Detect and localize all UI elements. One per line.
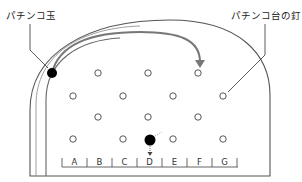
- pachinko-diagram: パチンコ玉 パチンコ台の釘 ABCDEFG: [0, 0, 302, 182]
- slot-label-f: F: [197, 157, 202, 167]
- pin: [170, 93, 176, 99]
- slot-label-g: G: [221, 157, 228, 167]
- ball-label: パチンコ玉: [6, 10, 56, 21]
- pin: [170, 136, 176, 142]
- drop-arrowhead-icon: [148, 152, 153, 156]
- pin: [220, 136, 226, 142]
- pin: [70, 136, 76, 142]
- pin: [95, 70, 101, 76]
- launch-rail: [46, 38, 120, 176]
- pin: [145, 70, 151, 76]
- trajectory-arrowhead-icon: [195, 60, 205, 68]
- slot-label-d: D: [146, 157, 153, 167]
- ball-motion-dots: [155, 132, 162, 136]
- trajectory-arrow: [52, 32, 200, 73]
- pin: [145, 114, 151, 120]
- slot-label-e: E: [172, 157, 177, 167]
- pin-label: パチンコ台の釘: [231, 10, 301, 21]
- pin: [220, 93, 226, 99]
- slot-label-a: A: [72, 157, 78, 167]
- launch-ball: [47, 68, 57, 78]
- launch-rail-outer: [36, 26, 140, 176]
- pin: [195, 70, 201, 76]
- slot-label-b: B: [97, 157, 103, 167]
- pin: [195, 114, 201, 120]
- ball-leader-line: [30, 24, 48, 68]
- pin: [120, 93, 126, 99]
- pin: [120, 136, 126, 142]
- falling-ball: [145, 135, 156, 146]
- pins-group: [70, 70, 226, 142]
- slot-label-c: C: [122, 157, 128, 167]
- slots-group: ABCDEFG: [62, 157, 237, 167]
- pin: [70, 93, 76, 99]
- pin: [95, 114, 101, 120]
